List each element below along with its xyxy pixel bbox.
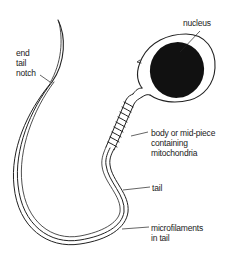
label-nucleus: nucleus [183, 18, 211, 28]
label-end-tail-notch: end tail notch [16, 48, 36, 78]
tail-end-piece [52, 20, 63, 82]
mid-piece [106, 94, 142, 150]
label-tail: tail [152, 183, 162, 193]
label-body-mid-piece: body or mid-piece containing mitochondri… [151, 128, 215, 158]
label-microfilaments: microfilaments in tail [151, 223, 203, 243]
tail [13, 82, 128, 245]
